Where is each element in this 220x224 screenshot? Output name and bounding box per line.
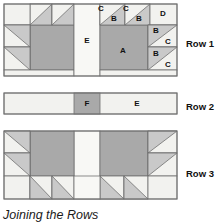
patch-label-e-row1: E bbox=[84, 36, 90, 45]
row-3-dark-square-left bbox=[30, 131, 74, 176]
row-1-left-bottom-band bbox=[4, 70, 74, 76]
patch-label-c1: C bbox=[98, 4, 104, 13]
patch-label-c4: C bbox=[165, 60, 171, 69]
patch-a-left bbox=[30, 25, 74, 70]
row-3-bottom-left-corner bbox=[4, 176, 30, 199]
joining-the-rows-diagram: C B C B D E A B C B C F E bbox=[0, 0, 220, 224]
row-3-bottom-right-corner bbox=[148, 176, 177, 199]
row-1-right-bottom-band bbox=[100, 70, 177, 76]
row-1-block: C B C B D E A B C B C bbox=[4, 4, 177, 76]
row-1-label: Row 1 bbox=[186, 38, 215, 49]
patch-label-c3: C bbox=[165, 37, 171, 46]
patch-label-d: D bbox=[160, 9, 166, 18]
patch-label-a: A bbox=[120, 46, 126, 55]
patch-label-b2: B bbox=[136, 14, 142, 23]
patch-label-b4: B bbox=[153, 49, 159, 58]
row-3-block bbox=[4, 131, 177, 199]
patch-label-b3: B bbox=[153, 26, 159, 35]
patch-label-f: F bbox=[85, 99, 90, 108]
figure-caption: Joining the Rows bbox=[2, 208, 98, 222]
patch-e-center-row3-lower bbox=[74, 176, 100, 199]
patch-label-c2: C bbox=[123, 4, 129, 13]
patch-label-b1: B bbox=[111, 14, 117, 23]
patch-label-e-row2: E bbox=[134, 99, 140, 108]
row-3-dark-square-right bbox=[100, 131, 148, 176]
row-3-label: Row 3 bbox=[186, 168, 214, 179]
patch-d-left bbox=[4, 4, 30, 25]
row-2-block: F E bbox=[4, 93, 177, 114]
row-2-label: Row 2 bbox=[186, 101, 214, 112]
